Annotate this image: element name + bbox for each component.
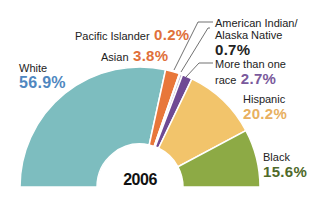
label-pacific-pct: 0.2% [154, 26, 189, 43]
label-asian: Asian 3.8% [101, 48, 168, 64]
label-pacific-name: Pacific Islander [75, 30, 150, 42]
label-hispanic: Hispanic 20.2% [243, 94, 287, 121]
year-label: 2006 [110, 171, 170, 189]
label-white-name: White [19, 63, 66, 74]
label-multi-name2: race [215, 74, 236, 86]
label-amind-name2: Alaska Native [215, 30, 298, 41]
label-american-indian: American Indian/ Alaska Native 0.7% [215, 18, 298, 57]
leader-line [186, 63, 213, 77]
label-black-name: Black [263, 152, 307, 163]
label-multi-pct: 2.7% [241, 70, 276, 87]
label-white-pct: 56.9% [19, 75, 66, 91]
label-black: Black 15.6% [263, 152, 307, 179]
label-pacific: Pacific Islander 0.2% [75, 27, 189, 43]
label-amind-pct: 0.7% [215, 42, 298, 57]
label-hispanic-pct: 20.2% [243, 106, 287, 121]
label-hispanic-name: Hispanic [243, 94, 287, 105]
label-more-than-one: More than one race 2.7% [215, 59, 286, 87]
label-white: White 56.9% [19, 63, 66, 91]
label-black-pct: 15.6% [263, 164, 307, 179]
label-multi-name1: More than one [215, 59, 286, 70]
label-asian-name: Asian [101, 51, 129, 63]
label-asian-pct: 3.8% [133, 47, 168, 64]
label-amind-name1: American Indian/ [215, 18, 298, 29]
